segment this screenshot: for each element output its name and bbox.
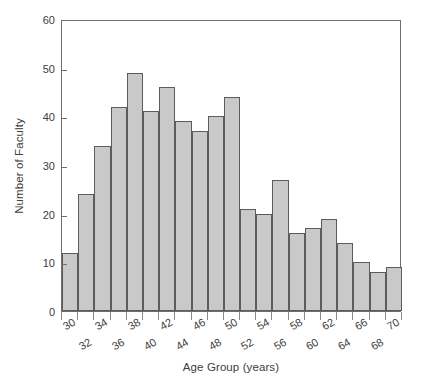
bar (321, 219, 337, 311)
bar (111, 107, 127, 311)
x-tick-label: 36 (106, 334, 129, 354)
x-tick-label: 60 (300, 334, 323, 354)
x-tick-label: 38 (122, 314, 145, 334)
y-tick-label: 30 (33, 160, 55, 172)
bar (337, 243, 353, 311)
x-tick-label: 30 (57, 314, 80, 334)
plot-area (61, 20, 401, 312)
x-tick-label: 44 (171, 334, 194, 354)
y-tick-label: 40 (33, 111, 55, 123)
bar (192, 131, 208, 311)
x-tick-label: 32 (74, 334, 97, 354)
bar (94, 146, 110, 311)
x-tick-label: 54 (252, 314, 275, 334)
y-axis-title: Number of Faculty (8, 20, 30, 312)
y-tick-label: 60 (33, 14, 55, 26)
bar (208, 116, 224, 311)
bar (143, 111, 159, 311)
x-tick-label: 52 (236, 334, 259, 354)
x-tick-label: 34 (90, 314, 113, 334)
bars-layer (62, 21, 400, 311)
x-axis-tick-labels: 3032343638404244464850525456586062646668… (61, 312, 401, 368)
y-tick-label: 20 (33, 209, 55, 221)
x-tick-label: 42 (155, 314, 178, 334)
bar (127, 73, 143, 311)
y-axis-tick-labels: 0102030405060 (33, 0, 55, 386)
x-tick-label: 64 (333, 334, 356, 354)
x-tick-label: 46 (187, 314, 210, 334)
bar (289, 233, 305, 311)
y-tick-label: 10 (33, 257, 55, 269)
x-tick-label: 66 (349, 314, 372, 334)
bar (240, 209, 256, 311)
bar (175, 121, 191, 311)
bar (305, 228, 321, 311)
y-tick-mark (62, 264, 67, 265)
histogram-chart: Number of Faculty 0102030405060 30323436… (0, 0, 427, 386)
bar (256, 214, 272, 311)
y-tick-label: 0 (33, 306, 55, 318)
y-tick-mark (62, 167, 67, 168)
y-tick-mark (62, 70, 67, 71)
bar (224, 97, 240, 311)
y-tick-mark (62, 118, 67, 119)
x-tick-label: 50 (219, 314, 242, 334)
y-tick-label: 50 (33, 63, 55, 75)
x-tick-label: 40 (138, 334, 161, 354)
bar (370, 272, 386, 311)
bar (159, 87, 175, 311)
x-tick-label: 48 (203, 334, 226, 354)
bar (62, 253, 78, 311)
x-tick-label: 62 (316, 314, 339, 334)
x-tick-label: 68 (365, 334, 388, 354)
bar (353, 262, 369, 311)
x-tick-label: 56 (268, 334, 291, 354)
y-tick-mark (62, 216, 67, 217)
bar (386, 267, 402, 311)
bar (272, 180, 288, 311)
x-axis-title: Age Group (years) (61, 361, 401, 373)
x-tick-label: 58 (284, 314, 307, 334)
bar (78, 194, 94, 311)
